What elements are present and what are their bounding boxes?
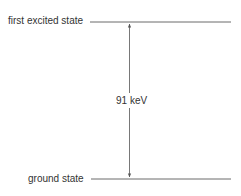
energy-gap-label: 91 keV [115, 95, 148, 107]
first-excited-state-label: first excited state [8, 15, 83, 27]
ground-state-label: ground state [28, 173, 84, 185]
